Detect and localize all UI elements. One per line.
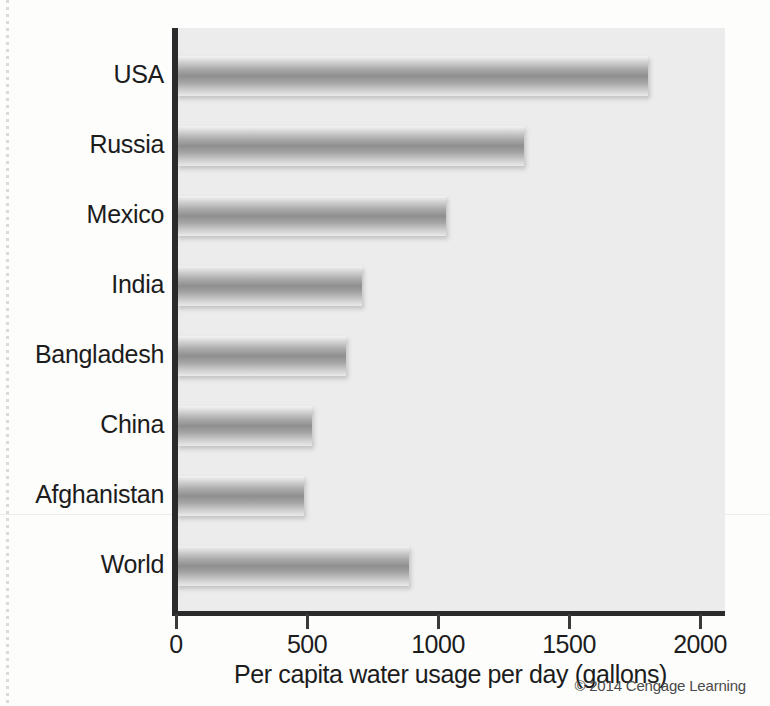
bar-afghanistan bbox=[176, 476, 304, 516]
x-tick-label-2000: 2000 bbox=[673, 630, 727, 659]
bar-world bbox=[176, 546, 409, 586]
x-tick-label-1500: 1500 bbox=[542, 630, 596, 659]
bar-usa bbox=[176, 56, 648, 96]
category-label-bangladesh: Bangladesh bbox=[4, 340, 164, 369]
bar-china bbox=[176, 406, 312, 446]
category-label-afghanistan: Afghanistan bbox=[4, 480, 164, 509]
category-label-russia: Russia bbox=[4, 130, 164, 159]
x-tick-label-500: 500 bbox=[287, 630, 327, 659]
bar-bangladesh bbox=[176, 336, 346, 376]
plot-area-background bbox=[176, 28, 725, 613]
x-axis-line bbox=[172, 611, 725, 616]
bar-russia bbox=[176, 126, 524, 166]
category-label-china: China bbox=[4, 410, 164, 439]
x-tick-500 bbox=[306, 614, 309, 629]
category-label-usa: USA bbox=[4, 60, 164, 89]
y-axis-line bbox=[172, 28, 178, 616]
x-tick-0 bbox=[175, 614, 178, 629]
category-label-mexico: Mexico bbox=[4, 200, 164, 229]
category-label-world: World bbox=[4, 550, 164, 579]
x-tick-1000 bbox=[437, 614, 440, 629]
bar-india bbox=[176, 266, 362, 306]
copyright-credit: © 2014 Cengage Learning bbox=[574, 677, 746, 694]
bar-mexico bbox=[176, 196, 446, 236]
category-label-india: India bbox=[4, 270, 164, 299]
x-tick-2000 bbox=[699, 614, 702, 629]
x-tick-label-1000: 1000 bbox=[411, 630, 465, 659]
x-tick-label-0: 0 bbox=[169, 630, 182, 659]
x-tick-1500 bbox=[568, 614, 571, 629]
figure-container: USARussiaMexicoIndiaBangladeshChinaAfgha… bbox=[0, 0, 770, 706]
